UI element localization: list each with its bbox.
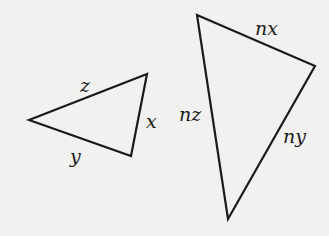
label-nx: nx (255, 17, 278, 39)
label-z: z (79, 74, 91, 96)
label-x: x (146, 110, 157, 132)
small-triangle: z x y (29, 74, 157, 167)
label-nz: nz (179, 103, 202, 125)
label-ny: ny (283, 125, 306, 147)
similar-triangles-diagram: z x y nx nz ny (0, 0, 329, 236)
label-y: y (69, 145, 81, 167)
large-triangle: nx nz ny (179, 15, 315, 219)
large-triangle-shape (197, 15, 315, 219)
